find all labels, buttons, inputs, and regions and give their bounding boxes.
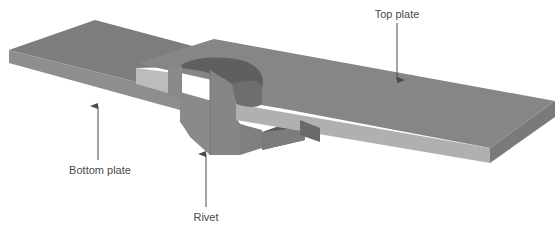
- rivet-cut-face-left: [168, 66, 210, 155]
- top-plate-label: Top plate: [375, 8, 420, 20]
- bottom-plate-label: Bottom plate: [69, 164, 131, 176]
- riveted-joint-diagram: [0, 0, 558, 239]
- rivet-label: Rivet: [193, 211, 218, 223]
